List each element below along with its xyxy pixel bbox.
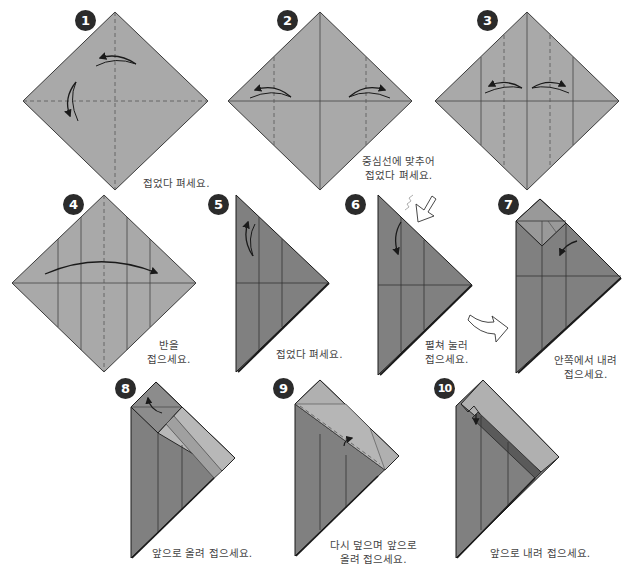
next-step-arrow-icon — [468, 315, 508, 342]
step-10-caption: 앞으로 내려 접으세요. — [490, 546, 590, 560]
origami-diagram — [0, 0, 632, 578]
step-8-caption: 앞으로 올려 접으세요. — [152, 546, 252, 560]
step-4-badge: 4 — [63, 194, 84, 215]
step-4-caption: 반을 접으세요. — [147, 338, 190, 366]
step-1-diagram — [23, 12, 208, 190]
step-9-badge: 9 — [273, 378, 294, 399]
step-1-badge: 1 — [75, 10, 96, 31]
step-2-caption: 중심선에 맞추어 접었다 펴세요. — [362, 154, 435, 182]
step-9-caption: 다시 덮으며 앞으로 올려 접으세요. — [330, 538, 417, 566]
step-2-badge: 2 — [277, 10, 298, 31]
step-8-badge: 8 — [115, 378, 136, 399]
step-7-diagram — [516, 199, 621, 373]
step-5-diagram — [236, 195, 329, 372]
step-5-caption: 접었다 펴세요. — [276, 347, 343, 361]
step-3-diagram — [435, 12, 619, 190]
step-8-diagram — [131, 382, 235, 558]
step-3-badge: 3 — [477, 10, 498, 31]
step-6-badge: 6 — [345, 194, 366, 215]
step-1-caption: 접었다 펴세요. — [143, 176, 210, 190]
step-10-badge: 10 — [434, 378, 455, 399]
step-9-diagram — [295, 380, 399, 556]
step-6-caption: 펼쳐 눌러 접으세요. — [425, 338, 468, 366]
step-10-diagram — [456, 380, 559, 558]
push-arrow-icon — [416, 196, 436, 222]
step-7-badge: 7 — [498, 194, 519, 215]
step-7-caption: 안쪽에서 내려 접으세요. — [554, 353, 617, 381]
step-5-badge: 5 — [208, 194, 229, 215]
